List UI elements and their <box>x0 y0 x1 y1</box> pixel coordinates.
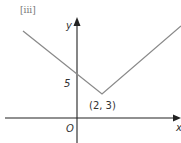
x-axis <box>5 115 181 122</box>
vertex-label: (2, 3) <box>89 100 116 111</box>
x-axis-label: x <box>175 122 181 133</box>
part-label: [iii] <box>20 5 36 15</box>
x-axis-arrow-icon <box>173 115 181 122</box>
abs-value-graph <box>23 26 181 94</box>
y-axis-arrow-icon <box>74 17 81 26</box>
y-axis <box>74 17 81 143</box>
graph-figure: [iii] x y 5 (2, 3) O <box>0 0 181 143</box>
origin-label: O <box>66 123 74 134</box>
y-axis-label: y <box>65 20 73 31</box>
y-intercept-label: 5 <box>64 78 70 89</box>
